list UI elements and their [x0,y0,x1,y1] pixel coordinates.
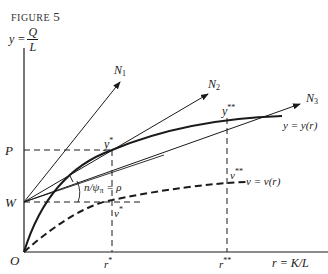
label-x-axis: r = K/L [272,257,309,269]
figure-label: FIGURE [11,12,50,23]
label-N2: N2 [208,78,220,92]
curve-y [24,116,282,252]
label-y-dstar: y** [222,104,235,117]
label-curve-v: v = v(r) [246,176,280,187]
label-origin: O [10,254,19,267]
y-axis-label: y = Q L [9,26,38,53]
label-N3: N3 [306,92,318,106]
diagram-canvas [0,0,328,274]
label-v-dstar: v** [230,168,243,181]
label-angle: n/ψπ = ρ [84,182,122,195]
y-axis-label-lhs: y = [9,32,25,47]
label-P: P [5,144,13,157]
tick-mark [70,176,73,182]
label-W: W [5,196,16,209]
ray-N3 [24,104,300,202]
fraction-numerator: Q [27,26,38,40]
figure-title: FIGURE5 [11,9,60,25]
curve-v [24,182,248,252]
label-r-dstar: r** [219,257,231,270]
figure-number: 5 [53,9,60,24]
fraction: Q L [27,26,38,53]
label-N1: N1 [114,64,126,78]
label-v-star: v* [114,206,123,219]
label-y-star: y* [104,137,113,150]
fraction-denominator: L [29,40,36,53]
label-r-star: r* [104,257,112,270]
label-curve-y: y = y(r) [283,120,317,131]
